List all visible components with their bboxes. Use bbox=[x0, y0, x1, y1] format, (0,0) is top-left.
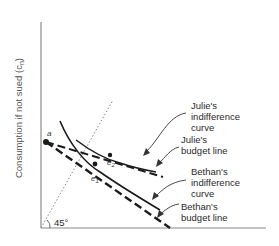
svg-text:curve: curve bbox=[191, 122, 214, 133]
y-axis-label: Consumption if not sued (cn) bbox=[13, 58, 25, 178]
arrowhead-icon bbox=[157, 210, 164, 218]
svg-text:Julie's: Julie's bbox=[191, 100, 217, 111]
annotation-bethan-budget: Bethan's budget line bbox=[157, 201, 227, 223]
point-e2-label: e2 bbox=[107, 158, 115, 168]
arrow-bethan-budget bbox=[160, 204, 179, 214]
point-a-label: a bbox=[47, 129, 52, 138]
svg-text:Bethan's: Bethan's bbox=[181, 201, 218, 212]
annotation-bethan-ic: Bethan's indifference curve bbox=[152, 166, 240, 200]
svg-text:budget line: budget line bbox=[181, 212, 227, 223]
angle-label: 45° bbox=[54, 217, 69, 228]
angle-arc bbox=[47, 220, 50, 228]
arrowhead-icon bbox=[152, 192, 159, 200]
svg-text:indifference: indifference bbox=[191, 111, 240, 122]
svg-text:Julie's: Julie's bbox=[181, 134, 207, 145]
point-e1-label: e1 bbox=[91, 174, 99, 184]
svg-text:Bethan's: Bethan's bbox=[191, 166, 228, 177]
svg-text:indifference: indifference bbox=[191, 177, 240, 188]
svg-text:budget line: budget line bbox=[181, 145, 227, 156]
annotation-julie-budget: Julie's budget line bbox=[156, 134, 227, 167]
diagram: Consumption if not sued (cn) 45° a e1 e2… bbox=[0, 0, 279, 246]
arrow-bethan-ic bbox=[156, 180, 186, 196]
equilibrium-point-e1 bbox=[93, 162, 98, 167]
svg-text:curve: curve bbox=[191, 188, 214, 199]
endowment-point-a bbox=[43, 139, 49, 145]
julie-budget-line bbox=[46, 142, 163, 177]
equilibrium-point-e2 bbox=[108, 153, 112, 157]
arrow-julie-budget bbox=[159, 147, 179, 163]
